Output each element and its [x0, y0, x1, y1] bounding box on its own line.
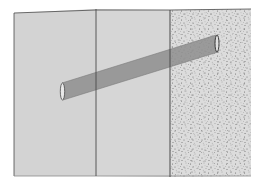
pipe-end-right: [215, 35, 219, 52]
panel-middle: [96, 9, 170, 177]
pipe-end-left: [60, 83, 64, 100]
wall-section-diagram: [0, 0, 263, 186]
layer-stippled: [170, 9, 251, 177]
